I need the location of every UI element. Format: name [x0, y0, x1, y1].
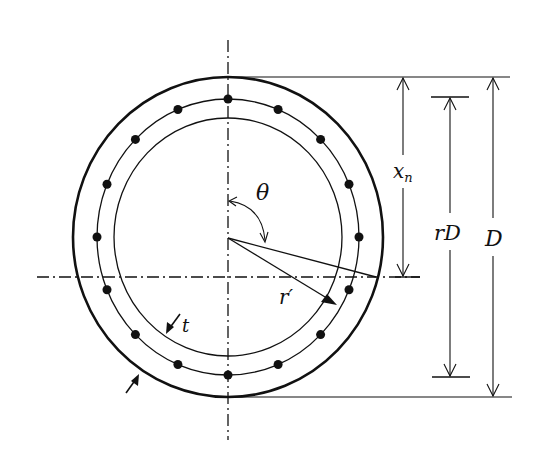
reinforcing-bar: [103, 180, 112, 189]
xn-label: xn: [393, 159, 413, 185]
reinforcing-bar: [274, 360, 283, 369]
reinforcing-bar: [131, 330, 140, 339]
reinforcing-bar: [345, 180, 354, 189]
reinforcing-bar: [173, 105, 182, 114]
reinforcing-bar: [224, 95, 233, 104]
reinforcing-bar: [131, 135, 140, 144]
reinforcing-bar: [224, 371, 233, 380]
xn-label-subscript: n: [404, 170, 412, 185]
xn-label-main: x: [393, 159, 404, 183]
reinforcing-bar: [345, 285, 354, 294]
D-label: D: [484, 226, 503, 251]
reinforcing-bar: [316, 135, 325, 144]
reinforcing-bar: [316, 330, 325, 339]
t-label: t: [182, 315, 190, 336]
column-section-diagram: θ r′ t xn rD D: [0, 0, 538, 461]
reinforcing-bar: [355, 233, 364, 242]
angle-ray-line: [228, 238, 376, 277]
r-prime-label: r′: [279, 285, 294, 309]
reinforcing-bar: [274, 105, 283, 114]
theta-angle-arc: [230, 201, 265, 240]
reinforcing-bar: [173, 360, 182, 369]
theta-label: θ: [256, 180, 269, 205]
rD-label: rD: [434, 221, 461, 245]
reinforcing-bar: [93, 233, 102, 242]
reinforcing-bar: [103, 285, 112, 294]
